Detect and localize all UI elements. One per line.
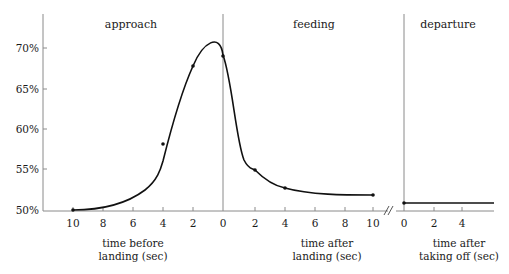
chart: 70% 65% 60% 55% 50% 10 8 6 4 2 0 2 4 6 8… — [0, 0, 509, 274]
x-tick-after-10: 10 — [366, 217, 379, 229]
phase-approach-label: approach — [105, 18, 157, 31]
y-tick-70: 70% — [16, 42, 39, 54]
x-tick-before-8: 8 — [100, 217, 107, 229]
xlabel-takeoff-line2: taking off (sec) — [419, 250, 499, 262]
x-tick-takeoff-4: 4 — [459, 217, 466, 229]
x-tick-after-4: 4 — [282, 217, 289, 229]
x-tick-before-4: 4 — [160, 217, 167, 229]
y-tick-50: 50% — [16, 204, 39, 216]
y-tick-60: 60% — [16, 123, 39, 135]
phase-feeding-label: feeding — [293, 18, 335, 31]
x-tick-before-10: 10 — [66, 217, 79, 229]
xlabel-after-line1: time after — [301, 237, 355, 249]
xlabel-before-line1: time before — [102, 237, 163, 249]
x-tick-after-6: 6 — [312, 217, 319, 229]
x-tick-after-2: 2 — [252, 217, 259, 229]
x-tick-takeoff-2: 2 — [431, 217, 438, 229]
y-tick-65: 65% — [16, 83, 39, 95]
x-tick-after-8: 8 — [342, 217, 349, 229]
xlabel-after-line2: landing (sec) — [293, 250, 362, 262]
x-tick-before-6: 6 — [130, 217, 137, 229]
x-tick-takeoff-0: 0 — [401, 217, 408, 229]
xlabel-takeoff-line1: time after — [433, 237, 487, 249]
x-tick-before-2: 2 — [190, 217, 197, 229]
xlabel-before-line2: landing (sec) — [99, 250, 168, 262]
phase-departure-label: departure — [420, 18, 476, 31]
x-tick-landing-0: 0 — [220, 217, 227, 229]
y-tick-55: 55% — [16, 163, 39, 175]
